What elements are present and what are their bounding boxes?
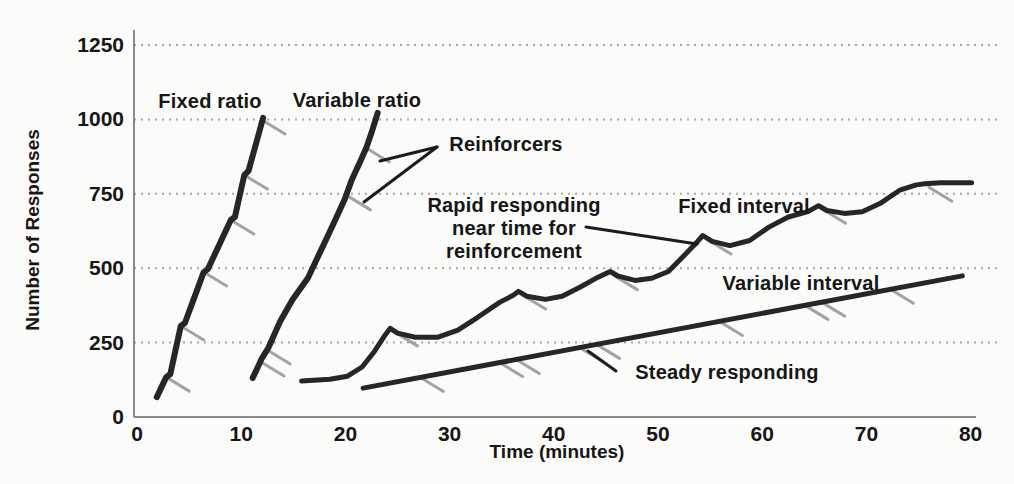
reinforcer-tick-fixed-ratio <box>262 120 285 134</box>
reinforcer-tick-variable-interval <box>805 305 828 319</box>
reinforcer-tick-fixed-ratio <box>231 220 254 234</box>
x-axis-tick-label: 30 <box>438 422 461 445</box>
x-axis-tick-label: 70 <box>855 422 878 445</box>
reinforcer-tick-variable-interval <box>822 302 845 316</box>
reinforcer-tick-fixed-ratio <box>204 272 227 286</box>
y-axis-tick-label: 1250 <box>77 33 124 56</box>
y-axis-title: Number of Responses <box>22 129 44 331</box>
reinforcer-tick-fixed-ratio <box>181 326 204 340</box>
reinforcer-tick-variable-interval <box>420 377 443 391</box>
y-axis-tick-label: 0 <box>112 405 124 428</box>
reinforcer-tick-variable-ratio <box>261 362 284 376</box>
reinforcer-tick-variable-ratio <box>267 350 290 364</box>
reinforcer-tick-variable-interval <box>597 344 620 358</box>
reinforcer-tick-fixed-ratio <box>244 175 267 189</box>
rapid-responding-label-leader-line <box>586 227 697 244</box>
x-axis-tick-label: 20 <box>334 422 357 445</box>
curve-fixed-interval <box>302 183 972 381</box>
x-axis-tick-label: 50 <box>646 422 669 445</box>
reinforcer-tick-variable-interval <box>516 360 539 374</box>
reinforcer-tick-variable-interval <box>500 363 523 377</box>
y-axis-tick-label: 1000 <box>77 107 124 130</box>
reinforcer-tick-variable-interval <box>890 289 913 303</box>
curve-fixed-ratio <box>157 118 263 397</box>
chart-plot-area: 02505007501000125001020304050607080 <box>0 0 1014 484</box>
reinforcer-tick-variable-interval <box>719 321 742 335</box>
reinforcer-tick-fixed-ratio <box>166 377 189 391</box>
y-axis-tick-label: 500 <box>89 256 124 279</box>
y-axis-tick-label: 750 <box>89 182 124 205</box>
x-axis-tick-label: 60 <box>751 422 774 445</box>
x-axis-tick-label: 0 <box>131 422 143 445</box>
reinforcement-schedules-chart: 02505007501000125001020304050607080 Fixe… <box>0 0 1014 484</box>
curve-variable-ratio <box>253 113 378 378</box>
x-axis-tick-label: 80 <box>959 422 982 445</box>
x-axis-title: Time (minutes) <box>490 441 625 463</box>
y-axis-tick-label: 250 <box>89 331 124 354</box>
x-axis-tick-label: 10 <box>230 422 253 445</box>
